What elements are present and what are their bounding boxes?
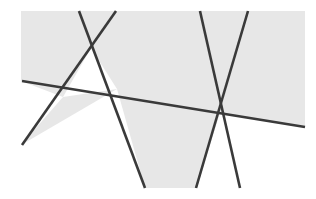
figure-root: [0, 0, 316, 199]
line-diagram-canvas: [0, 0, 316, 199]
